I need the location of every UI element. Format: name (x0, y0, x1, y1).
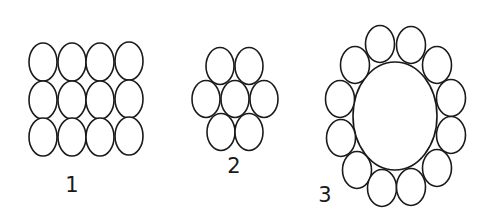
group-3-ring-packing (326, 26, 466, 207)
circle (29, 81, 57, 119)
circle (437, 117, 466, 154)
circle (29, 118, 57, 156)
circle (250, 81, 278, 118)
circle (368, 170, 397, 207)
circle (58, 118, 86, 156)
circle (343, 152, 372, 189)
circle (397, 169, 426, 206)
circle (327, 120, 356, 157)
group-1-grid-packing (29, 42, 143, 156)
circle (86, 81, 114, 119)
circle (86, 118, 114, 156)
circle (423, 47, 452, 84)
circle (235, 48, 263, 85)
circle (115, 42, 143, 80)
circle (58, 43, 86, 81)
circle (115, 117, 143, 155)
circle (207, 114, 235, 151)
circle (235, 114, 263, 151)
group-2-hex-packing (192, 48, 278, 151)
circle (86, 43, 114, 81)
circle (326, 81, 355, 118)
group-1-label: 1 (65, 173, 78, 197)
circle (115, 80, 143, 118)
circle (437, 80, 466, 117)
circle (366, 26, 395, 63)
diagram-canvas: 1 2 3 (0, 0, 488, 223)
circle (58, 81, 86, 119)
circle (192, 81, 220, 118)
group-3-label: 3 (318, 183, 331, 207)
group-2-label: 2 (227, 154, 240, 178)
circle (29, 43, 57, 81)
circle (341, 47, 370, 84)
circle (397, 27, 426, 64)
circle (423, 150, 452, 187)
circle (221, 81, 249, 118)
circle (206, 48, 234, 85)
